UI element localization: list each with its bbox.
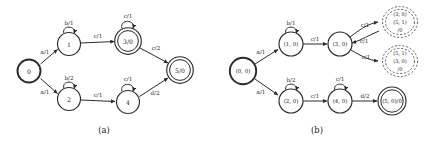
cloud-lower[interactable]: (5, 1) (3, 0) /0 xyxy=(383,46,418,77)
panel-a: a/1 a/1 b/1 b/2 c/1 c/1 c/1 c/1 c/2 d/2 … xyxy=(18,13,194,135)
state-s0[interactable]: 0 xyxy=(18,60,41,83)
edge-s1-s3 xyxy=(81,42,115,44)
state-label-t1: (1, 0) xyxy=(284,41,299,47)
state-label-t4: (4, 0) xyxy=(333,98,348,104)
state-t4[interactable]: (4, 0) xyxy=(328,89,352,113)
state-label-t0: (0, 0) xyxy=(236,68,251,74)
state-t1[interactable]: (1, 0) xyxy=(279,32,303,56)
edge-label-s2-s4: c/1 xyxy=(94,92,103,98)
edge-label-t4-self: c/1 xyxy=(336,76,345,82)
state-s3[interactable]: 3/0 xyxy=(115,28,142,55)
cloud-upper-line-3: /0 xyxy=(398,27,403,33)
cloud-upper-line-1: (3, 0) xyxy=(393,11,406,17)
edge-label-s2-self: b/2 xyxy=(64,75,73,81)
caption-panel-a: (a) xyxy=(98,125,110,135)
edge-label-s1-self: b/1 xyxy=(64,20,73,26)
cloud-lower-line-1: (5, 1) xyxy=(393,50,406,56)
caption-panel-b: (b) xyxy=(311,125,323,135)
cloud-upper-line-2: (5, 1) xyxy=(393,19,406,25)
panel-a-edges xyxy=(41,21,169,101)
state-label-s0: 0 xyxy=(27,68,31,75)
cloud-lower-line-2: (3, 0) xyxy=(393,58,406,64)
state-label-s1: 1 xyxy=(67,41,71,48)
state-label-t3: (3, 0) xyxy=(333,41,348,47)
state-s4[interactable]: 4 xyxy=(117,91,140,114)
state-label-s4: 4 xyxy=(126,99,130,106)
edge-label-s1-s3: c/1 xyxy=(94,33,103,39)
state-label-s5: 5/0 xyxy=(175,67,185,74)
edge-s2-s4 xyxy=(81,100,115,102)
edge-label-s4-s5: d/2 xyxy=(150,90,159,96)
edge-label-t4-t5: d/2 xyxy=(360,93,369,99)
state-t2[interactable]: (2, 0) xyxy=(279,89,303,113)
edge-label-s0-s2: a/1 xyxy=(41,89,50,95)
state-s1[interactable]: 1 xyxy=(58,33,81,56)
state-t0[interactable]: (0, 0) xyxy=(230,58,256,84)
edge-label-t2-t4: c/1 xyxy=(311,93,320,99)
figure-container: a/1 a/1 b/1 b/2 c/1 c/1 c/1 c/1 c/2 d/2 … xyxy=(0,0,428,142)
edge-label-t0-t2: a/1 xyxy=(257,89,266,95)
state-label-t2: (2, 0) xyxy=(284,98,299,104)
edge-label-t1-t3: c/1 xyxy=(311,36,320,42)
state-label-t5: (5, 0)/0 xyxy=(382,98,402,104)
panel-b: a/1 a/1 b/1 b/2 c/1 c/1 c/1 d/2 c/1 c/1 … xyxy=(230,7,418,136)
state-s5[interactable]: 5/0 xyxy=(167,57,194,84)
state-label-s2: 2 xyxy=(67,96,71,103)
edge-label-t3-cloud-lower: c/1 xyxy=(362,54,371,60)
state-t3[interactable]: (3, 0) xyxy=(328,32,352,56)
edge-label-cloud-upper-t3: c/1 xyxy=(360,38,369,44)
edge-label-s3-s5: c/2 xyxy=(152,45,161,51)
state-s2[interactable]: 2 xyxy=(58,88,81,111)
state-label-s3: 3/0 xyxy=(123,38,133,45)
state-t5[interactable]: (5, 0)/0 xyxy=(378,87,406,115)
edge-label-t1-self: b/1 xyxy=(286,20,295,26)
edge-label-t2-self: b/2 xyxy=(286,77,295,83)
cloud-upper[interactable]: (3, 0) (5, 1) /0 xyxy=(383,7,418,38)
edge-label-t0-t1: a/1 xyxy=(257,49,266,55)
edge-label-t3-cloud-upper: c/1 xyxy=(361,22,370,28)
edge-label-s0-s1: a/1 xyxy=(41,49,50,55)
cloud-lower-line-3: /0 xyxy=(398,66,403,72)
edge-label-s3-self: c/1 xyxy=(124,13,133,19)
panel-b-edges xyxy=(255,22,379,101)
fsm-diagram-canvas: a/1 a/1 b/1 b/2 c/1 c/1 c/1 c/1 c/2 d/2 … xyxy=(0,0,428,142)
edge-label-s4-self: c/1 xyxy=(124,76,133,82)
